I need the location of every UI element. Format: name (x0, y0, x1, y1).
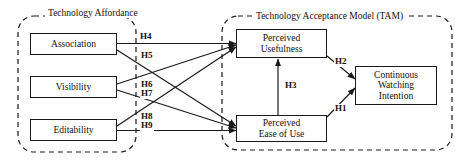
node-perceived-ease-of-use-line1: Perceived (263, 118, 300, 129)
edge-label-h1: H1 (334, 104, 348, 114)
node-perceived-ease-of-use: Perceived Ease of Use (236, 115, 327, 142)
group-label-technology-affordance: Technology Affordance (45, 8, 141, 18)
edge-label-h3: H3 (284, 81, 298, 91)
node-editability: Editability (30, 119, 117, 141)
edge-label-h4: H4 (139, 32, 153, 42)
group-label-line2: Affordance (95, 8, 138, 18)
node-editability-label: Editability (53, 125, 93, 136)
edge-label-h9: H9 (140, 121, 154, 131)
node-perceived-usefulness: Perceived Usefulness (236, 29, 327, 58)
group-label-line1: Technology (48, 8, 93, 18)
research-model-diagram: Technology Affordance Technology Accepta… (0, 0, 455, 163)
node-perceived-usefulness-line1: Perceived (263, 33, 300, 44)
node-association: Association (30, 33, 117, 55)
node-association-label: Association (51, 39, 96, 50)
edge-h7-line (117, 90, 236, 128)
node-continuous-watching-intention: Continuous Watching Intention (355, 66, 437, 105)
node-visibility: Visibility (30, 76, 117, 98)
node-visibility-label: Visibility (56, 82, 91, 93)
node-perceived-usefulness-line2: Usefulness (261, 44, 303, 55)
edge-label-h2: H2 (334, 57, 348, 67)
edge-label-h7: H7 (140, 89, 154, 99)
group-label-tam: Technology Acceptance Model (TAM) (253, 11, 406, 21)
edge-h6-line (117, 45, 236, 84)
node-cwi-line3: Intention (379, 91, 413, 102)
node-cwi-line2: Watching (378, 80, 414, 91)
node-perceived-ease-of-use-line2: Ease of Use (259, 129, 304, 140)
edge-label-h5: H5 (140, 51, 154, 61)
node-cwi-line1: Continuous (374, 70, 418, 81)
